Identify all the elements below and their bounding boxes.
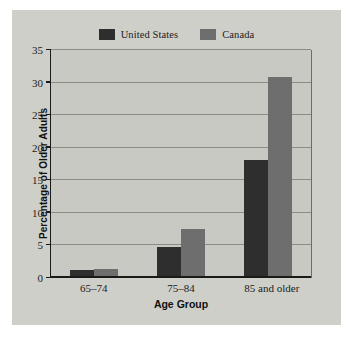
bar-canada[interactable] <box>181 229 205 278</box>
x-axis-tick-label: 65–74 <box>70 282 118 296</box>
legend-swatch-united-states <box>99 29 115 40</box>
legend-label-united-states: United States <box>121 29 179 40</box>
bar-united-states[interactable] <box>244 160 268 278</box>
y-axis-tick-label: 5 <box>38 239 44 251</box>
bar-group <box>244 50 292 278</box>
x-axis-tick-labels: 65–7475–8485 and older <box>50 282 312 296</box>
y-axis-tick-label: 15 <box>32 174 43 186</box>
legend-entry-canada: Canada <box>200 29 254 40</box>
bar-group <box>157 50 205 278</box>
x-axis-tick-label: 85 and older <box>244 282 292 296</box>
legend-label-canada: Canada <box>222 29 254 40</box>
chart-legend: United States Canada <box>12 26 341 42</box>
legend-entry-united-states: United States <box>99 29 179 40</box>
y-axis-tick-label: 20 <box>32 142 43 154</box>
chart-figure: United States Canada Percentage of Older… <box>12 10 341 325</box>
x-axis-tick-label: 75–84 <box>157 282 205 296</box>
plot-area: 05101520253035 <box>50 50 312 278</box>
y-axis-tick-label: 10 <box>32 207 43 219</box>
x-axis-title: Age Group <box>50 298 312 310</box>
y-axis-tick-label: 30 <box>32 77 43 89</box>
bars-container <box>51 50 311 278</box>
legend-swatch-canada <box>200 29 216 40</box>
bar-group <box>70 50 118 278</box>
y-axis-tick-label: 35 <box>32 44 43 56</box>
bar-canada[interactable] <box>268 77 292 278</box>
bar-united-states[interactable] <box>157 247 181 278</box>
y-axis-tick-label: 25 <box>32 109 43 121</box>
y-axis-tick-label: 0 <box>38 272 44 284</box>
plot-area-wrapper: 05101520253035 <box>50 50 312 278</box>
x-axis-line <box>51 276 311 278</box>
